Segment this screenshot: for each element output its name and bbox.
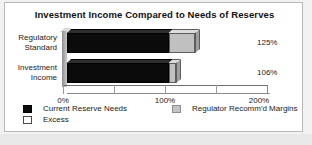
category-label-regulatory-standard: Regulatory Standard	[5, 33, 57, 52]
bar-investment-income	[67, 63, 176, 83]
chart-title: Investment Income Compared to Needs of R…	[5, 9, 304, 20]
bar-segment-regulator-margins	[169, 63, 176, 83]
bar-side-face	[195, 29, 200, 53]
category-label-line: Income	[5, 73, 57, 83]
legend-swatch-excess	[23, 116, 32, 124]
legend-swatch-regulator-margins	[172, 105, 181, 113]
category-label-line: Standard	[5, 43, 57, 53]
x-axis-left-edge	[63, 85, 69, 94]
legend-label-regulator-margins: Regulator Recomm'd Margins	[192, 104, 298, 113]
bar-regulatory-standard	[67, 33, 195, 53]
x-axis-right-edge	[261, 85, 268, 94]
legend-label-excess: Excess	[43, 115, 69, 124]
legend-swatch-current-reserve-needs	[23, 105, 32, 113]
x-axis-tick-100	[165, 85, 166, 94]
bar-side-face	[176, 59, 181, 83]
bottom-strip	[0, 134, 312, 145]
legend-label-current-reserve-needs: Current Reserve Needs	[43, 104, 127, 113]
x-axis-line-front	[67, 93, 270, 94]
data-label-regulatory-standard: 125%	[257, 38, 277, 47]
bar-segment-current-reserve-needs	[67, 63, 169, 83]
x-axis-tick-50	[114, 85, 115, 94]
chart-screenshot: Investment Income Compared to Needs of R…	[0, 0, 312, 145]
category-label-line: Regulatory	[5, 33, 57, 43]
bar-segment-current-reserve-needs	[67, 33, 169, 53]
x-axis-tick-150	[216, 85, 217, 94]
chart-frame: Investment Income Compared to Needs of R…	[4, 2, 303, 132]
category-label-investment-income: Investment Income	[5, 63, 57, 82]
chart-legend: Current Reserve Needs Excess Regulator R…	[5, 103, 304, 131]
category-label-line: Investment	[5, 63, 57, 73]
x-axis-floor	[63, 85, 268, 94]
data-label-investment-income: 106%	[257, 68, 277, 77]
plot-area: Regulatory Standard Investment Income 12…	[5, 27, 304, 97]
bar-segment-regulator-margins	[169, 33, 195, 53]
